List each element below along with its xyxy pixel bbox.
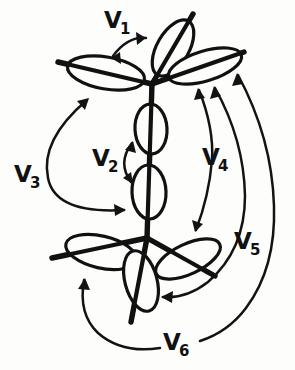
label-v2: V 2	[92, 145, 118, 176]
label-v5-sub: 5	[250, 241, 260, 259]
label-v1: V 1	[104, 7, 130, 38]
orbital-diagram-figure: V 1 V 2 V 3 V 4 V 5 V 6	[0, 0, 295, 370]
label-v3: V 3	[14, 161, 40, 192]
label-v3-sub: 3	[30, 174, 40, 192]
label-v6: V 6	[163, 329, 189, 360]
label-layer: V 1 V 2 V 3 V 4 V 5 V 6	[0, 0, 295, 370]
label-v4-sub: 4	[218, 157, 228, 175]
label-v1-sub: 1	[120, 20, 130, 38]
label-v4: V 4	[202, 144, 228, 175]
label-v6-sub: 6	[179, 342, 189, 360]
label-v5: V 5	[234, 228, 260, 259]
label-v2-sub: 2	[108, 158, 118, 176]
